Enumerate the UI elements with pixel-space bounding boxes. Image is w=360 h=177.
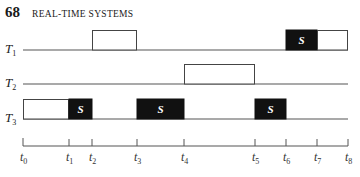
tick-label-t3: t3 — [134, 150, 141, 166]
execution-block — [185, 65, 255, 85]
semaphore-label: S — [77, 103, 83, 115]
tick-label-t2: t2 — [89, 150, 96, 166]
execution-block — [24, 100, 69, 120]
tick-label-t5: t5 — [252, 150, 259, 166]
semaphore-label: S — [267, 103, 273, 115]
task-label: T2 — [5, 75, 16, 92]
tick-label-t4: t4 — [181, 150, 188, 166]
task-row-T2: T2 — [5, 65, 348, 93]
tick-label-t0: t0 — [20, 150, 27, 166]
tick-label-t6: t6 — [283, 150, 290, 166]
task-row-T1: T1S — [5, 30, 348, 58]
tick-label-t8: t8 — [345, 150, 352, 166]
semaphore-label: S — [298, 34, 304, 46]
time-axis: t0t1t2t3t4t5t6t7t8 — [20, 138, 352, 166]
task-label: T1 — [5, 41, 16, 58]
execution-block — [318, 31, 348, 51]
semaphore-label: S — [157, 103, 163, 115]
task-row-T3: T3SSS — [5, 99, 348, 127]
tick-label-t1: t1 — [66, 150, 73, 166]
task-label: T3 — [5, 110, 16, 127]
task-timeline-figure: T1ST2T3SSSt0t1t2t3t4t5t6t7t8 — [0, 0, 360, 177]
execution-block — [93, 31, 137, 51]
tick-label-t7: t7 — [314, 150, 321, 166]
